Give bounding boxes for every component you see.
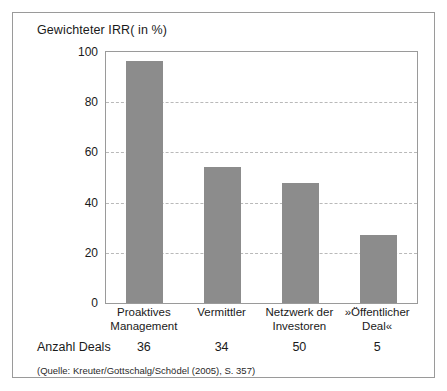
x-axis-category-label: »ÖffentlicherDeal« <box>338 305 416 333</box>
bar-slot <box>106 52 184 303</box>
bar-slot <box>339 52 417 303</box>
x-axis-category-labels: ProaktivesManagementVermittlerNetzwerk d… <box>105 305 416 339</box>
x-axis-category-label-line: Deal« <box>338 319 416 333</box>
y-axis-tick-label: 60 <box>85 145 98 159</box>
anzahl-deals-value: 5 <box>338 340 416 354</box>
x-axis-category-label-line: Investoren <box>261 319 339 333</box>
y-axis-tick-label: 0 <box>91 296 98 310</box>
figure-panel: Gewichteter IRR( in %) 020406080100 Proa… <box>12 12 435 378</box>
plot-area: 020406080100 <box>105 51 418 304</box>
x-axis-category-label-line: Proaktives <box>105 305 183 319</box>
x-axis-category-label: ProaktivesManagement <box>105 305 183 333</box>
y-axis-tick-label: 20 <box>85 246 98 260</box>
y-axis-tick-label: 80 <box>85 95 98 109</box>
bar <box>126 61 163 303</box>
bar <box>360 235 397 303</box>
source-note: (Quelle: Kreuter/Gottschalg/Schödel (200… <box>37 365 255 376</box>
bar-slot <box>262 52 340 303</box>
bars-group <box>106 52 417 303</box>
y-axis-tick-label: 100 <box>78 45 98 59</box>
anzahl-deals-label: Anzahl Deals <box>37 340 111 354</box>
anzahl-deals-value: 34 <box>183 340 261 354</box>
anzahl-deals-values: 3634505 <box>105 340 416 358</box>
bar-slot <box>184 52 262 303</box>
chart-title: Gewichteter IRR( in %) <box>37 23 167 37</box>
x-axis-category-label: Vermittler <box>183 305 261 319</box>
bar <box>282 183 319 303</box>
x-axis-category-label-line: Vermittler <box>183 305 261 319</box>
x-axis-category-label-line: »Öffentlicher <box>338 305 416 319</box>
bar <box>204 167 241 303</box>
anzahl-deals-value: 36 <box>105 340 183 354</box>
x-axis-category-label-line: Management <box>105 319 183 333</box>
anzahl-deals-value: 50 <box>261 340 339 354</box>
y-axis-tick-label: 40 <box>85 196 98 210</box>
anzahl-deals-row: Anzahl Deals 3634505 <box>13 340 434 358</box>
x-axis-category-label-line: Netzwerk der <box>261 305 339 319</box>
x-axis-category-label: Netzwerk derInvestoren <box>261 305 339 333</box>
